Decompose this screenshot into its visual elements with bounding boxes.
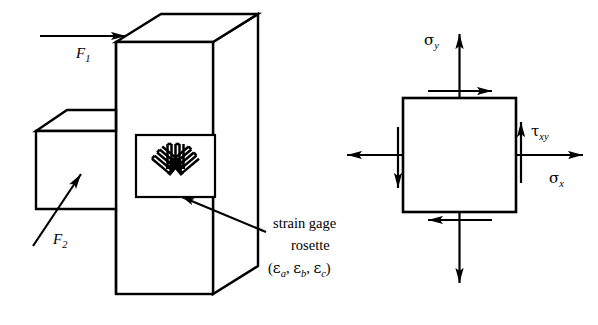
- rosette-caption-strains: (εa, εb, εc): [268, 259, 331, 279]
- stress-element-square: [403, 98, 516, 212]
- shelf-top-face: [36, 110, 116, 131]
- rosette-caption-line1: strain gage: [273, 215, 336, 231]
- sigma-x-label: σx: [549, 169, 564, 189]
- diagram-canvas: F1 F2: [0, 0, 598, 325]
- strain-gage-rosette: [136, 135, 215, 197]
- force-F2-label: F2: [52, 231, 68, 250]
- force-F1-label: F1: [75, 45, 90, 64]
- figure-root: F1 F2: [0, 0, 598, 325]
- column-right-face: [213, 14, 258, 294]
- rosette-caption-line2: rosette: [291, 237, 330, 253]
- shelf-front-face: [36, 131, 116, 209]
- sigma-y-label: σy: [424, 31, 439, 51]
- tau-xy-label: τxy: [531, 122, 549, 142]
